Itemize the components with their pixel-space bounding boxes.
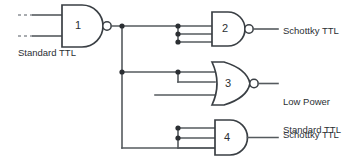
gate-1-number: 1 <box>75 19 81 31</box>
gate-2-nand-body <box>212 12 245 46</box>
gate-2-input-b-dot <box>175 31 180 36</box>
gate-1-family-label: Standard TTL <box>18 47 76 58</box>
gate-2-group: 2 <box>175 12 278 46</box>
gate-2-output-bubble <box>245 25 253 33</box>
logic-diagram-canvas: 1 2 <box>0 0 356 162</box>
gate-1-nand-body <box>62 5 103 47</box>
gate-1-output-bubble <box>103 22 111 30</box>
gate-4-input-b-dot <box>175 135 180 140</box>
gate-4-number: 4 <box>224 131 230 143</box>
gate-4-group: 4 <box>175 120 278 155</box>
gate-3-group: 3 <box>155 62 278 105</box>
gate-3-input-a-dot <box>175 69 180 74</box>
junction-dot-middle <box>119 69 124 74</box>
gate-3-output-bubble <box>250 79 258 87</box>
gate-2-input-a-dot <box>175 23 180 28</box>
gate-3-family-label-line1: Low Power <box>283 96 339 107</box>
gate-2-number: 2 <box>222 22 228 34</box>
gate-1-group: 1 <box>18 5 111 47</box>
gate-4-and-body <box>215 120 247 155</box>
gate-4-input-a-dot <box>175 125 180 130</box>
gate-4-family-label: Standard TTL <box>283 124 341 135</box>
gate-3-number: 3 <box>225 77 231 89</box>
gate-2-family-label: Schottky TTL <box>283 25 339 36</box>
gate-2-input-c-dot <box>175 39 180 44</box>
gate-3-family-label: Low Power Schottky TTL <box>283 74 339 162</box>
junction-dot-top <box>119 23 124 28</box>
